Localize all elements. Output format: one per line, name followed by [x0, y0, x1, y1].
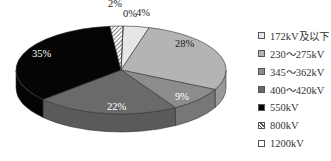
legend-swatch — [258, 122, 265, 129]
pie-slice-label: 28% — [175, 38, 195, 49]
legend-item: 400～420kV — [258, 80, 329, 98]
pie-slice-label: 9% — [175, 91, 189, 102]
legend-swatch — [258, 140, 265, 147]
legend-label: 800kV — [270, 120, 299, 131]
legend-item: 1200kV — [258, 134, 329, 152]
legend-item: 800kV — [258, 116, 329, 134]
legend-label: 1200kV — [270, 138, 304, 149]
legend-item: 172kV及以下 — [258, 26, 329, 44]
legend-label: 345～362kV — [270, 64, 324, 79]
legend-item: 345～362kV — [258, 62, 329, 80]
legend-label: 230～275kV — [270, 46, 324, 61]
legend-swatch — [258, 50, 265, 57]
legend-item: 550kV — [258, 98, 329, 116]
pie-slice-label: 22% — [107, 101, 127, 112]
legend-swatch — [258, 32, 265, 39]
legend-swatch — [258, 104, 265, 111]
legend: 172kV及以下 230～275kV 345～362kV 400～420kV 5… — [258, 26, 329, 152]
pie-slice-label: 35% — [32, 48, 52, 59]
pie-chart: 4%28%9%22%35%2%0% — [0, 0, 240, 161]
pie-slice-label: 2% — [108, 0, 122, 9]
legend-swatch — [258, 86, 265, 93]
legend-label: 400～420kV — [270, 82, 324, 97]
pie-slice-label: 0% — [123, 8, 137, 19]
legend-item: 230～275kV — [258, 44, 329, 62]
pie-slice-label: 4% — [136, 7, 150, 18]
legend-label: 172kV及以下 — [270, 28, 329, 43]
legend-swatch — [258, 68, 265, 75]
legend-label: 550kV — [270, 102, 299, 113]
